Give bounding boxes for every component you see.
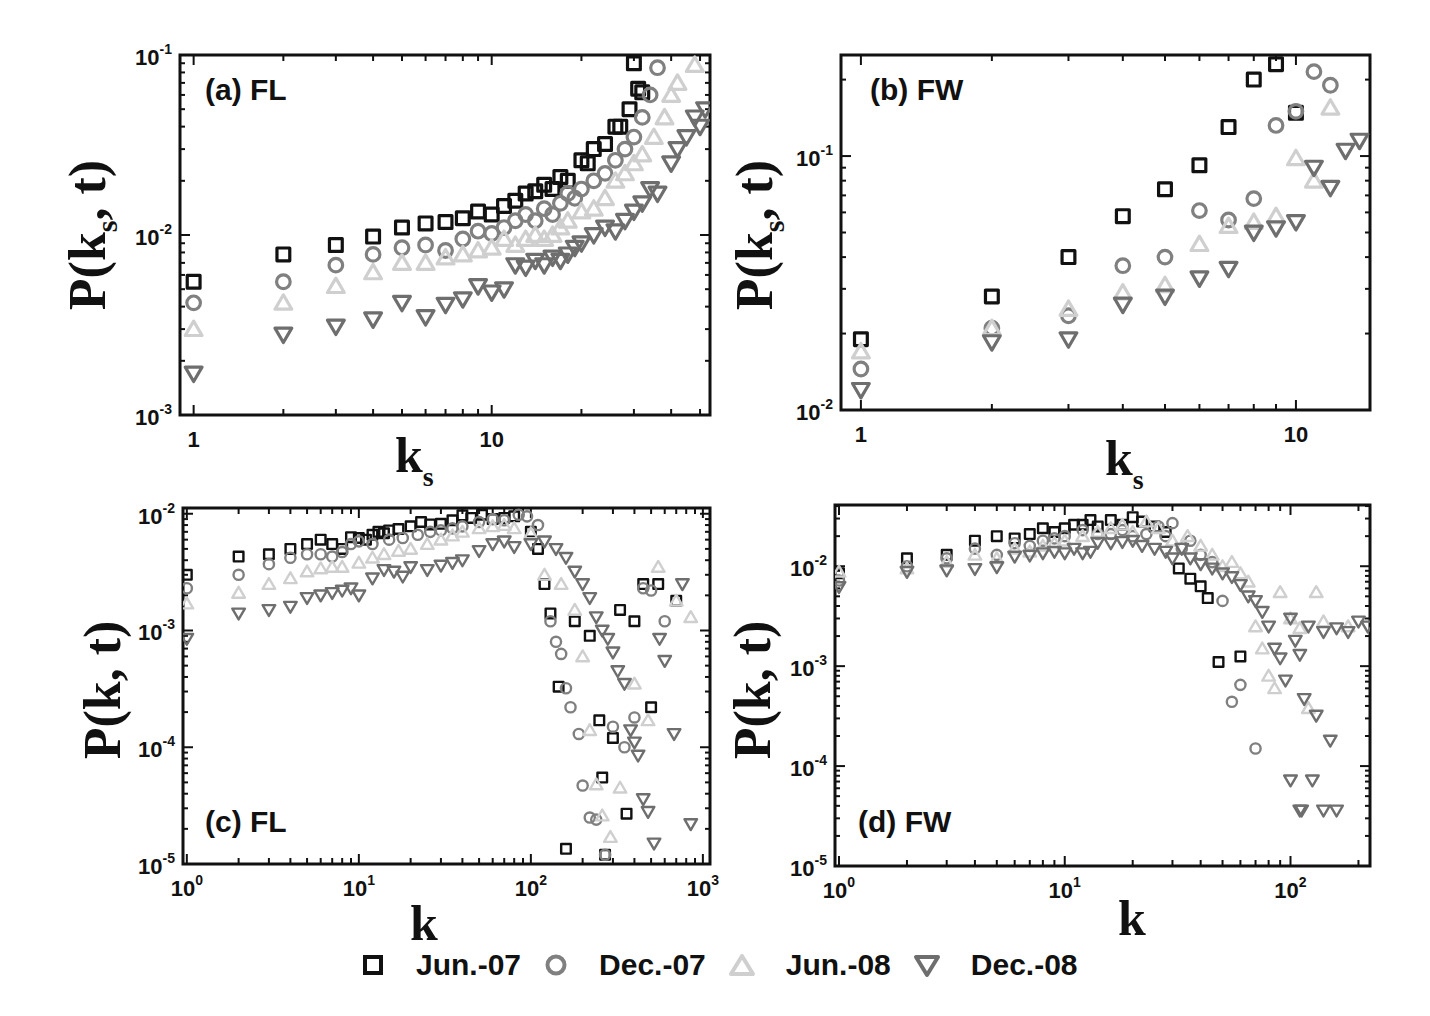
- legend-item-dec-08: Dec.-08: [913, 948, 1078, 982]
- x-tick-label: 100: [823, 874, 855, 903]
- y-tick-label: 10-5: [138, 850, 175, 879]
- plot-frame: [180, 55, 710, 415]
- y-tick-label: 10-1: [796, 142, 833, 171]
- y-tick-label: 10-2: [796, 396, 833, 425]
- x-tick-label: 103: [687, 872, 719, 901]
- figure-canvas: 10-310-210-1110(a) FLksP(ks, t) 10-210-1…: [0, 0, 1430, 940]
- panel-label: (b) FW: [870, 73, 964, 106]
- legend-item-jun-08: Jun.-08: [728, 948, 891, 982]
- triangle-up-marker-icon: [728, 952, 756, 978]
- legend: Jun.-07 Dec.-07 Jun.-08 Dec.-08: [360, 948, 1100, 982]
- x-tick-label: 10: [1284, 422, 1308, 447]
- panel-label: (c) FL: [205, 805, 287, 838]
- legend-item-jun-07: Jun.-07: [360, 948, 521, 982]
- triangle-down-marker-icon: [913, 952, 941, 978]
- x-axis-title: k: [1118, 890, 1146, 940]
- y-tick-label: 10-2: [790, 552, 827, 581]
- x-axis-title: ks: [1105, 430, 1144, 495]
- y-axis-title: P(ks, t): [726, 160, 790, 310]
- panel-a-fl-ks: 10-310-210-1110(a) FLksP(ks, t): [59, 41, 714, 492]
- y-tick-label: 10-4: [790, 752, 827, 781]
- panel-c-fl-k: 10-510-410-310-2100101102103(c) FLkP(k, …: [74, 500, 719, 940]
- y-tick-label: 10-3: [138, 616, 175, 645]
- x-tick-label: 101: [343, 872, 375, 901]
- circle-marker-icon: [543, 952, 569, 978]
- y-tick-label: 10-3: [790, 652, 827, 681]
- square-marker-icon: [360, 952, 386, 978]
- y-axis-title: P(k, t): [74, 621, 132, 760]
- y-tick-label: 10-5: [790, 852, 827, 881]
- x-tick-label: 1: [188, 427, 200, 452]
- panel-label: (d) FW: [858, 805, 952, 838]
- y-tick-label: 10-2: [135, 221, 172, 250]
- x-tick-label: 102: [515, 872, 547, 901]
- x-tick-label: 102: [1274, 874, 1306, 903]
- y-axis-title: P(k, t): [724, 621, 782, 760]
- legend-label: Dec.-07: [599, 948, 706, 982]
- x-axis-title: ks: [395, 427, 434, 492]
- panel-b-fw-ks: 10-210-1110(b) FWksP(ks, t): [726, 55, 1370, 495]
- x-tick-label: 1: [855, 422, 867, 447]
- y-tick-label: 10-1: [135, 41, 172, 70]
- panel-d-fw-k: 10-510-410-310-2100101102(d) FWkP(k, t): [724, 505, 1374, 940]
- panel-label: (a) FL: [205, 73, 287, 106]
- y-tick-label: 10-2: [138, 500, 175, 529]
- legend-label: Jun.-08: [786, 948, 891, 982]
- x-tick-label: 100: [171, 872, 203, 901]
- legend-label: Dec.-08: [971, 948, 1078, 982]
- x-tick-label: 101: [1049, 874, 1081, 903]
- x-axis-title: k: [410, 895, 438, 940]
- y-tick-label: 10-4: [138, 733, 175, 762]
- legend-label: Jun.-07: [416, 948, 521, 982]
- x-tick-label: 10: [479, 427, 503, 452]
- y-axis-title: P(ks, t): [59, 160, 123, 310]
- y-tick-label: 10-3: [135, 401, 172, 430]
- legend-item-dec-07: Dec.-07: [543, 948, 706, 982]
